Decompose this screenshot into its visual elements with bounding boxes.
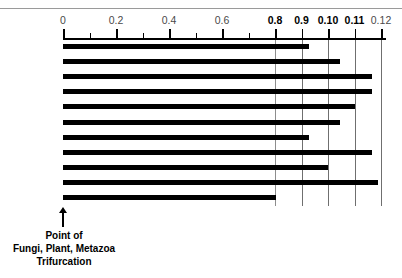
bar [63, 135, 309, 140]
axis-minor-tick [90, 33, 92, 38]
x-axis-line [63, 38, 386, 40]
axis-tick [381, 29, 383, 38]
caption-line-3: Trifurcation [0, 255, 128, 268]
trifurcation-caption: Point of Fungi, Plant, Metazoa Trifurcat… [0, 229, 128, 268]
chart-figure: 00.20.40.60.80.90.100.110.12 Point of Fu… [0, 0, 402, 278]
bar [63, 89, 372, 94]
caption-line-2: Fungi, Plant, Metazoa [0, 242, 128, 255]
caption-line-1: Point of [0, 229, 128, 242]
axis-tick [116, 29, 118, 38]
axis-tick-label: 0.12 [371, 14, 391, 26]
axis-tick [302, 29, 304, 38]
axis-tick-label: 0.10 [318, 14, 338, 26]
up-arrow-icon [59, 207, 67, 227]
bar [63, 165, 328, 170]
bar [63, 195, 276, 200]
bar [63, 104, 355, 109]
bar [63, 44, 309, 49]
axis-tick [63, 29, 65, 38]
bar [63, 120, 340, 125]
axis-tick-label: 0.8 [268, 14, 283, 26]
axis-tick-label: 0.9 [294, 14, 309, 26]
axis-minor-tick [249, 33, 251, 38]
axis-tick [222, 29, 224, 38]
axis-tick [355, 29, 357, 38]
bar [63, 59, 340, 64]
bar [63, 180, 378, 185]
axis-tick [169, 29, 171, 38]
gridline [381, 40, 382, 206]
axis-tick-label: 0.6 [215, 14, 230, 26]
axis-tick-label: 0.11 [345, 14, 365, 26]
axis-minor-tick [143, 33, 145, 38]
axis-tick-label: 0.2 [109, 14, 124, 26]
axis-tick-label: 0.4 [162, 14, 177, 26]
bar [63, 150, 372, 155]
axis-tick [275, 29, 277, 38]
axis-tick-label: 0 [60, 14, 66, 26]
axis-tick [328, 29, 330, 38]
bar [63, 74, 372, 79]
axis-minor-tick [196, 33, 198, 38]
